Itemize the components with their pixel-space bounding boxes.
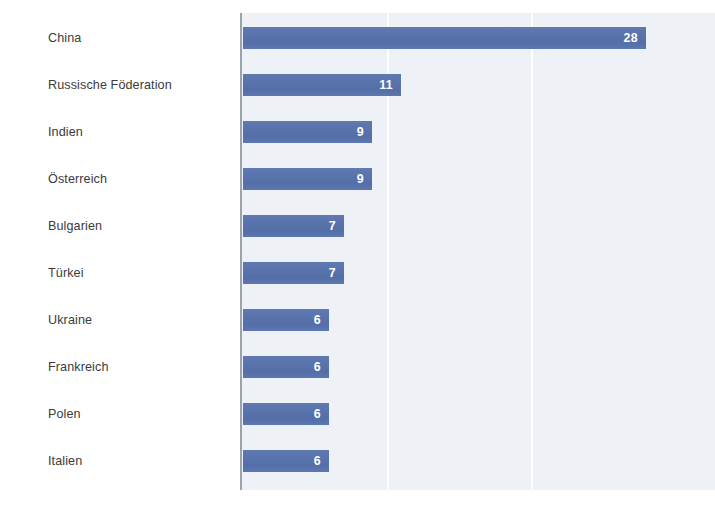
category-label-4: Bulgarien (0, 215, 192, 237)
plot-area: 28 11 9 9 7 7 (240, 13, 715, 490)
bar-value-label-5: 7 (329, 262, 336, 284)
category-label-5: Türkei (0, 262, 192, 284)
category-label-8: Polen (0, 403, 192, 425)
bar-value-label-3: 9 (357, 168, 364, 190)
category-label-9: Italien (0, 450, 192, 472)
bar-value-label-8: 6 (314, 403, 321, 425)
category-label-0: China (0, 27, 192, 49)
category-axis: China Russische Föderation Indien Österr… (0, 13, 240, 490)
bar-3[interactable]: 9 (243, 168, 372, 190)
bar-9[interactable]: 6 (243, 450, 329, 472)
bar-value-label-2: 9 (357, 121, 364, 143)
bar-chart-figure: China Russische Föderation Indien Österr… (0, 0, 715, 505)
bar-value-label-4: 7 (329, 215, 336, 237)
bar-4[interactable]: 7 (243, 215, 344, 237)
category-label-2: Indien (0, 121, 192, 143)
value-axis-line (240, 13, 242, 490)
gridline-20 (531, 13, 533, 490)
bar-6[interactable]: 6 (243, 309, 329, 331)
bar-7[interactable]: 6 (243, 356, 329, 378)
category-label-1: Russische Föderation (0, 74, 192, 96)
category-label-6: Ukraine (0, 309, 192, 331)
category-label-3: Österreich (0, 168, 192, 190)
bar-1[interactable]: 11 (243, 74, 401, 96)
bar-value-label-9: 6 (314, 450, 321, 472)
bar-value-label-6: 6 (314, 309, 321, 331)
bar-0[interactable]: 28 (243, 27, 646, 49)
bar-value-label-7: 6 (314, 356, 321, 378)
bar-value-label-0: 28 (624, 27, 638, 49)
category-label-7: Frankreich (0, 356, 192, 378)
bar-2[interactable]: 9 (243, 121, 372, 143)
bar-8[interactable]: 6 (243, 403, 329, 425)
bar-value-label-1: 11 (379, 74, 393, 96)
bar-5[interactable]: 7 (243, 262, 344, 284)
